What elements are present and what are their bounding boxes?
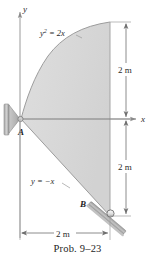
figure-caption: Prob. 9–23 <box>0 243 155 254</box>
y-axis-label: y <box>22 4 27 14</box>
parabola-eq-rest: = 2x <box>47 28 65 38</box>
mechanics-figure-diagram: y x A <box>0 0 155 262</box>
figure-container: y x A <box>0 0 155 262</box>
point-b-label: B <box>79 199 86 209</box>
support-wall <box>4 104 9 135</box>
dimension-lower-label: 2 m <box>118 162 132 172</box>
line-equation-text: y = −x <box>30 176 54 186</box>
point-a-label: A <box>17 127 24 137</box>
x-axis-label: x <box>140 114 145 124</box>
line-leader-line <box>62 183 70 188</box>
line-equation-label: y = −x <box>30 176 70 188</box>
pin-support-at-a: A <box>4 104 24 137</box>
dimension-lower-vertical: 2 m <box>110 121 138 216</box>
pin-joint-circle <box>18 116 23 121</box>
parabola-equation-text: y2 = 2x <box>39 28 65 38</box>
dimension-horizontal-label: 2 m <box>56 229 70 239</box>
dimension-upper-label: 2 m <box>118 65 132 75</box>
dimension-upper-vertical: 2 m <box>110 22 138 119</box>
